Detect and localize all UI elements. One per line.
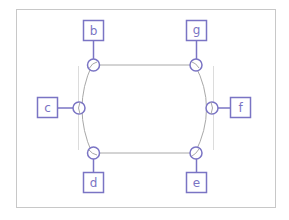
node-b[interactable]: b bbox=[84, 21, 104, 72]
node-e-label: e bbox=[193, 176, 200, 190]
ring-diagram: b g c f d e bbox=[0, 0, 289, 220]
node-c-label: c bbox=[44, 101, 51, 115]
node-b-port-icon bbox=[88, 59, 100, 71]
node-g-label: g bbox=[193, 23, 201, 37]
node-d[interactable]: d bbox=[84, 147, 104, 193]
node-c[interactable]: c bbox=[38, 98, 86, 118]
node-d-port-icon bbox=[88, 147, 100, 159]
node-b-label: b bbox=[90, 24, 98, 38]
ring-right-arc bbox=[195, 65, 207, 153]
ring bbox=[82, 65, 207, 153]
node-g[interactable]: g bbox=[187, 21, 207, 72]
node-d-label: d bbox=[90, 176, 98, 190]
node-f[interactable]: f bbox=[206, 98, 251, 118]
node-e[interactable]: e bbox=[187, 147, 207, 193]
node-g-port-icon bbox=[190, 59, 202, 71]
